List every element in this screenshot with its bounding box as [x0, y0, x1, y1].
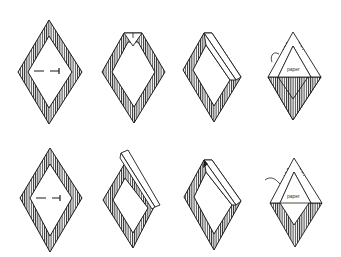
leader-curve [265, 178, 280, 184]
step-3-diamond [183, 33, 241, 122]
folding-diagram: paper paper [0, 0, 341, 257]
step-5-diamond [20, 148, 82, 252]
step-4-diamond: paper [268, 32, 321, 120]
step-7-diamond [184, 160, 241, 250]
step-2-diamond [102, 33, 165, 123]
step-6-diamond [103, 150, 160, 248]
paper-label: paper [287, 66, 300, 72]
step-8-diamond: paper [265, 158, 322, 247]
paper-label: paper [287, 193, 300, 199]
step-1-diamond [18, 20, 82, 124]
